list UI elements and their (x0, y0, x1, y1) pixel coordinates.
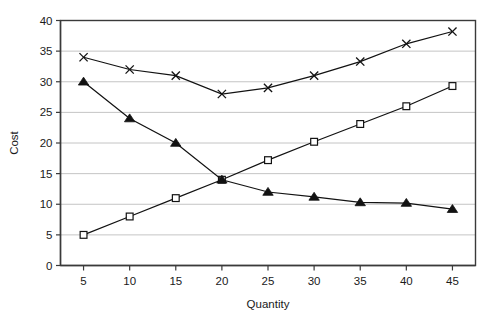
x-tick-label-35: 35 (354, 275, 367, 287)
y-tick-label-5: 5 (46, 229, 52, 241)
line-chart: 051015202530354051015202530354045Quantit… (0, 0, 496, 328)
y-tick-label-20: 20 (40, 137, 53, 149)
series-group (78, 27, 457, 238)
series-square-series (80, 83, 456, 239)
x-tick-label-45: 45 (446, 275, 459, 287)
x-tick-label-20: 20 (215, 275, 228, 287)
data-point (356, 57, 364, 65)
y-tick-label-40: 40 (40, 15, 53, 27)
y-tick-label-30: 30 (40, 76, 53, 88)
chart-container: 051015202530354051015202530354045Quantit… (0, 0, 496, 328)
data-point (448, 27, 456, 35)
data-point (402, 40, 410, 48)
x-tick-label-5: 5 (80, 275, 86, 287)
data-point (78, 77, 88, 85)
y-tick-label-15: 15 (40, 168, 53, 180)
data-point (80, 231, 87, 238)
x-tick-label-25: 25 (262, 275, 275, 287)
y-axis-title: Cost (8, 130, 20, 154)
y-tick-label-0: 0 (46, 260, 52, 272)
data-point (79, 53, 87, 61)
data-point (265, 157, 272, 164)
y-tick-label-10: 10 (40, 198, 53, 210)
data-point (403, 103, 410, 110)
x-tick-label-10: 10 (123, 275, 136, 287)
axes-group (56, 21, 476, 271)
gridlines-group (61, 21, 476, 235)
y-tick-label-35: 35 (40, 45, 53, 57)
x-tick-label-30: 30 (308, 275, 321, 287)
data-point (171, 138, 181, 146)
data-point (126, 213, 133, 220)
series-line-cross-series (84, 32, 453, 94)
series-cross-series (79, 27, 456, 98)
x-tick-label-15: 15 (169, 275, 182, 287)
x-axis-title: Quantity (247, 298, 290, 310)
y-tick-label-25: 25 (40, 106, 53, 118)
x-tick-label-40: 40 (400, 275, 413, 287)
data-point (311, 138, 318, 145)
data-point (357, 121, 364, 128)
series-triangle-series (78, 77, 457, 212)
data-point (310, 72, 318, 80)
data-point (172, 195, 179, 202)
data-point (449, 83, 456, 90)
